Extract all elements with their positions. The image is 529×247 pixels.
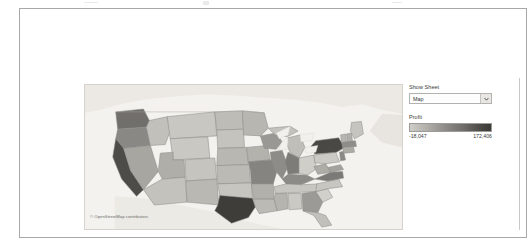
scan-artifact: [84, 2, 98, 3]
chevron-down-icon[interactable]: [480, 94, 491, 103]
dashboard-divider: [519, 78, 520, 230]
legend-color-ramp[interactable]: [409, 123, 492, 132]
scan-artifact: [203, 1, 209, 5]
screenshot-stage: Bar Chart collapsed Map visible: [0, 0, 529, 247]
legend-scale: -18,047 172,406: [409, 133, 492, 142]
show-sheet-selected-value: Map: [413, 96, 424, 103]
show-sheet-label: Show Sheet: [409, 84, 493, 91]
scan-artifact: [392, 2, 402, 3]
show-sheet-select[interactable]: Map: [409, 93, 492, 104]
legend-title: Profit: [409, 114, 493, 121]
choropleth-map[interactable]: [85, 85, 402, 229]
legend-min-value: -18,047: [409, 133, 427, 139]
map-panel[interactable]: © OpenStreetMap contributors: [84, 84, 403, 230]
legend-max-value: 172,406: [473, 133, 492, 139]
profit-legend: Profit -18,047 172,406: [409, 114, 493, 142]
map-attribution: © OpenStreetMap contributors: [90, 214, 148, 219]
dashboard-controls: Show Sheet Map Profit -18,047 172,406: [409, 84, 493, 142]
